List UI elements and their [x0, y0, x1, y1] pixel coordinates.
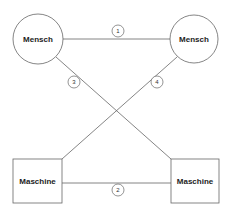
edge-1-badge: 1 [112, 25, 124, 37]
node-machine-right: Maschine [171, 159, 219, 203]
edge-4-badge: 4 [151, 76, 163, 88]
node-label: Mensch [179, 35, 209, 44]
node-human-left: Mensch [13, 14, 63, 64]
edge-3-line [56, 57, 171, 159]
edge-3-badge: 3 [68, 76, 80, 88]
edge-4-line [62, 57, 177, 159]
node-machine-left: Maschine [13, 159, 62, 203]
edge-2-badge: 2 [112, 184, 124, 196]
human-machine-diagram: Mensch Mensch Maschine Maschine 1 2 3 4 [0, 0, 233, 216]
node-label: Maschine [177, 177, 214, 186]
node-label: Mensch [23, 35, 53, 44]
node-label: Maschine [19, 177, 56, 186]
node-human-right: Mensch [170, 15, 218, 63]
